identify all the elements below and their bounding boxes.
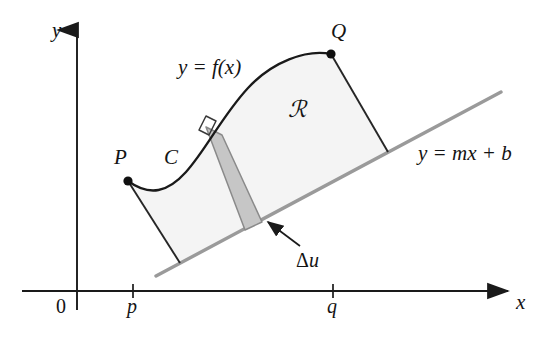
curve-label-C: C [164,147,178,168]
math-diagram: y x 0 p q P Q C y = f(x) y = mx + b ℛ Δu [0,0,540,339]
tick-label-p: p [127,296,137,316]
point-label-P: P [114,147,127,168]
point-label-Q: Q [331,21,346,42]
region-label-R: ℛ [288,98,306,121]
y-axis-label: y [52,20,61,41]
delta-u-variable: u [309,249,319,271]
delta-u-leader-arrow [268,222,300,246]
delta-u-label: Δu [296,250,319,270]
diagram-canvas [0,0,540,339]
point-P-marker [123,176,132,185]
point-Q-marker [326,49,335,58]
line-equation-label: y = mx + b [418,143,512,164]
origin-label: 0 [56,296,66,316]
x-axis-label: x [516,292,525,313]
delta-symbol: Δ [296,249,309,271]
curve-equation-label: y = f(x) [178,57,241,78]
tick-label-q: q [327,296,337,316]
